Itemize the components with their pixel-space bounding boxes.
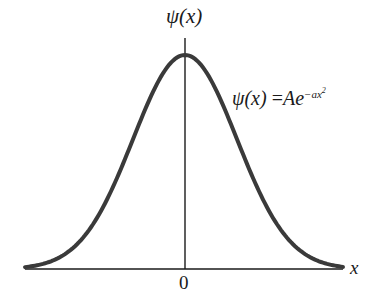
- equation-exponent: −ax2: [304, 88, 326, 100]
- equation-coef: A: [283, 87, 295, 109]
- equation-base: e: [295, 87, 304, 109]
- origin-label: 0: [179, 272, 189, 294]
- equation-lhs: ψ(x): [232, 87, 267, 109]
- exponent-power: 2: [322, 86, 326, 95]
- exponent-text: −ax: [304, 88, 322, 100]
- y-axis-label: ψ(x): [166, 4, 202, 29]
- x-axis-label: x: [350, 257, 358, 279]
- equation-label: ψ(x) =Ae−ax2: [232, 86, 326, 110]
- equation-equals: =: [272, 87, 283, 109]
- gaussian-plot: [0, 0, 377, 301]
